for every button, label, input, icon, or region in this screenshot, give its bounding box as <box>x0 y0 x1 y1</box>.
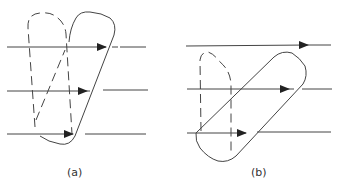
panel-a-solid-loop <box>40 12 115 144</box>
panel-a-dashed-loop <box>28 13 72 134</box>
diagram-canvas <box>0 0 337 188</box>
panel-b-label: (b) <box>251 166 267 179</box>
panel-a-flux-lines <box>7 47 148 134</box>
panel-a <box>7 12 148 144</box>
panel-a-dashed-diagonal <box>36 50 65 120</box>
panel-b <box>186 45 332 161</box>
panel-b-flux-lines <box>186 45 332 133</box>
panel-a-label: (a) <box>67 166 82 179</box>
panel-b-solid-loop <box>196 52 306 161</box>
panel-b-dashed-loop <box>200 52 231 153</box>
